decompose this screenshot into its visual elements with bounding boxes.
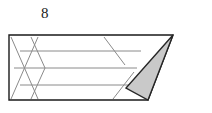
- dimension-label-8: 8: [41, 6, 49, 21]
- geometry-figure: 8: [0, 0, 212, 113]
- figure-canvas: [0, 0, 212, 113]
